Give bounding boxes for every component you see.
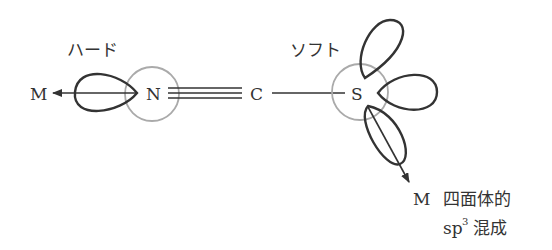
ambidentate-thiocyanate-diagram: ハード M N C ソフト S M 四面体的 sp 3 混成	[0, 0, 552, 250]
metal-label-right: M	[413, 189, 430, 209]
metal-label-left: M	[30, 84, 47, 104]
sp-text: sp	[443, 218, 463, 238]
sulfur-lower-lobe	[365, 106, 406, 164]
tetrahedral-label: 四面体的	[443, 189, 511, 209]
sulfur-label: S	[351, 84, 363, 104]
hybridization-text: 混成	[473, 218, 507, 238]
hard-label: ハード	[67, 40, 118, 60]
carbon-label: C	[250, 84, 263, 104]
sp3-superscript: 3	[462, 216, 468, 227]
soft-label: ソフト	[290, 40, 341, 60]
sp3-hybrid-label: sp 3 混成	[443, 216, 507, 238]
sulfur-upper-lobe	[361, 20, 404, 78]
sulfur-right-lobe	[378, 75, 437, 110]
nitrogen-label: N	[146, 84, 161, 104]
